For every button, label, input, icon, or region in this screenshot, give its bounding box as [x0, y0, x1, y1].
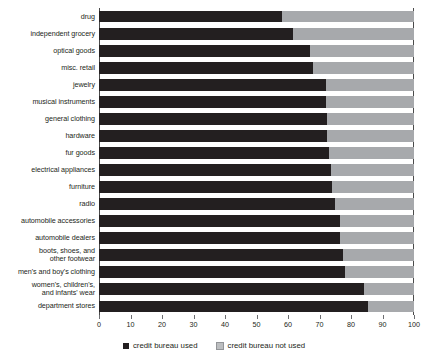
bar-segment-credit-bureau-not-used: [368, 301, 414, 313]
bar-row: [99, 45, 414, 57]
bar-row: [99, 147, 414, 159]
bar-segment-credit-bureau-used: [99, 215, 340, 227]
bar-segment-credit-bureau-not-used: [329, 147, 414, 159]
category-label: hardware: [0, 132, 95, 140]
bar-segment-credit-bureau-used: [99, 113, 327, 125]
x-axis-tick: [99, 315, 100, 319]
legend-label: credit bureau used: [133, 341, 198, 350]
bar-row: [99, 283, 414, 295]
stacked-bar-chart: drugindependent groceryoptical goodsmisc…: [0, 0, 428, 362]
x-axis-tick: [194, 315, 195, 319]
bar-row: [99, 96, 414, 108]
plot-area: [99, 8, 414, 315]
x-axis-tick-label: 100: [408, 320, 420, 329]
bar-segment-credit-bureau-used: [99, 181, 332, 193]
bar-segment-credit-bureau-used: [99, 28, 293, 40]
bar-segment-credit-bureau-not-used: [326, 79, 414, 91]
bar-segment-credit-bureau-not-used: [326, 96, 414, 108]
x-axis: 0102030405060708090100: [99, 315, 414, 333]
bar-row: [99, 62, 414, 74]
bar-segment-credit-bureau-not-used: [327, 113, 414, 125]
category-label: radio: [0, 200, 95, 208]
bar-row: [99, 301, 414, 313]
x-axis-tick: [225, 315, 226, 319]
bar-segment-credit-bureau-not-used: [313, 62, 414, 74]
bar-segment-credit-bureau-not-used: [331, 164, 414, 176]
category-label: drug: [0, 13, 95, 21]
bar-segment-credit-bureau-not-used: [340, 215, 414, 227]
x-axis-tick-label: 0: [97, 320, 101, 329]
bar-segment-credit-bureau-used: [99, 164, 331, 176]
x-axis-tick: [131, 315, 132, 319]
category-label: optical goods: [0, 47, 95, 55]
bar-rows: [99, 8, 414, 315]
bar-row: [99, 181, 414, 193]
dark-swatch-icon: [123, 343, 129, 349]
bar-segment-credit-bureau-used: [99, 266, 345, 278]
x-axis-tick: [288, 315, 289, 319]
bar-segment-credit-bureau-used: [99, 232, 340, 244]
category-label: furniture: [0, 183, 95, 191]
bar-segment-credit-bureau-not-used: [293, 28, 414, 40]
x-axis-tick-label: 10: [127, 320, 135, 329]
x-axis-tick-label: 40: [221, 320, 229, 329]
category-label: automobile dealers: [0, 234, 95, 242]
bar-segment-credit-bureau-used: [99, 198, 335, 210]
legend-label: credit bureau not used: [228, 341, 306, 350]
x-axis-tick-label: 90: [379, 320, 387, 329]
bar-row: [99, 11, 414, 23]
bar-row: [99, 232, 414, 244]
bar-segment-credit-bureau-used: [99, 130, 327, 142]
bar-row: [99, 79, 414, 91]
legend-item: credit bureau not used: [216, 341, 306, 350]
bar-segment-credit-bureau-used: [99, 249, 343, 261]
category-label: independent grocery: [0, 30, 95, 38]
x-axis-tick: [257, 315, 258, 319]
bar-segment-credit-bureau-used: [99, 301, 368, 313]
category-label: general clothing: [0, 115, 95, 123]
legend-item: credit bureau used: [123, 341, 198, 350]
bar-segment-credit-bureau-used: [99, 283, 364, 295]
bar-segment-credit-bureau-not-used: [310, 45, 414, 57]
bar-segment-credit-bureau-not-used: [345, 266, 414, 278]
bar-segment-credit-bureau-used: [99, 45, 310, 57]
bar-segment-credit-bureau-used: [99, 79, 326, 91]
category-label: men's and boy's clothing: [0, 268, 95, 276]
category-label: women's, children's,and infants' wear: [0, 281, 95, 298]
bar-segment-credit-bureau-used: [99, 96, 326, 108]
bar-row: [99, 28, 414, 40]
bar-row: [99, 164, 414, 176]
chart-legend: credit bureau usedcredit bureau not used: [0, 341, 428, 350]
bar-row: [99, 198, 414, 210]
bar-row: [99, 249, 414, 261]
bar-row: [99, 130, 414, 142]
category-label: automobile accessories: [0, 217, 95, 225]
bar-segment-credit-bureau-used: [99, 62, 313, 74]
bar-segment-credit-bureau-used: [99, 147, 329, 159]
category-label: misc. retail: [0, 64, 95, 72]
bar-segment-credit-bureau-not-used: [343, 249, 414, 261]
x-axis-tick-label: 70: [316, 320, 324, 329]
bar-segment-credit-bureau-not-used: [327, 130, 414, 142]
x-axis-tick: [414, 315, 415, 319]
bar-segment-credit-bureau-not-used: [282, 11, 414, 23]
x-axis-tick-label: 30: [190, 320, 198, 329]
light-swatch-icon: [216, 342, 224, 350]
x-axis-tick-label: 80: [347, 320, 355, 329]
bar-row: [99, 113, 414, 125]
x-axis-tick: [383, 315, 384, 319]
category-label: electrical appliances: [0, 166, 95, 174]
bar-row: [99, 215, 414, 227]
x-axis-tick-label: 60: [284, 320, 292, 329]
category-label: fur goods: [0, 149, 95, 157]
bar-row: [99, 266, 414, 278]
bar-segment-credit-bureau-not-used: [340, 232, 414, 244]
bar-segment-credit-bureau-used: [99, 11, 282, 23]
x-axis-tick-label: 20: [158, 320, 166, 329]
bar-segment-credit-bureau-not-used: [364, 283, 414, 295]
x-axis-tick: [162, 315, 163, 319]
category-label: jewelry: [0, 81, 95, 89]
x-axis-tick: [320, 315, 321, 319]
category-axis-labels: drugindependent groceryoptical goodsmisc…: [0, 8, 95, 315]
x-axis-tick: [351, 315, 352, 319]
